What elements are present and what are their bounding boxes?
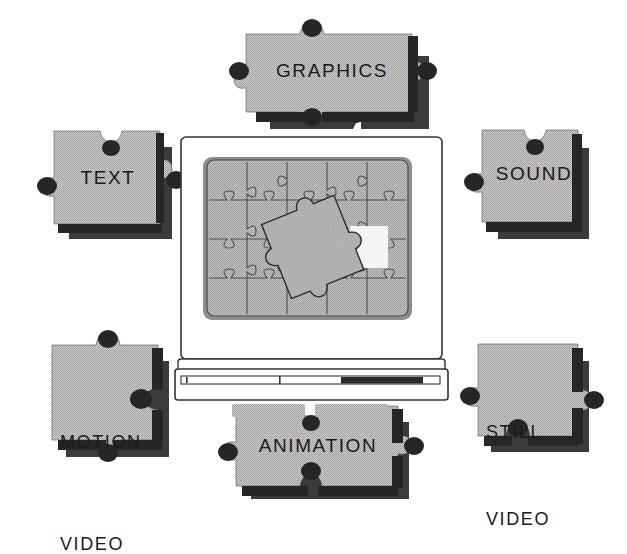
sound-bottom-shade	[486, 222, 582, 232]
still-body	[464, 344, 591, 436]
sound-body	[468, 130, 578, 222]
graphics-body	[234, 22, 424, 124]
text-left-knob-icon	[37, 177, 57, 195]
still-right-knob-icon	[584, 391, 604, 409]
motion-bottom-shade-a	[58, 440, 106, 450]
animation-left-knob-icon	[218, 443, 238, 461]
monitor-screen[interactable]	[203, 157, 412, 320]
monitor-slot-divider	[279, 376, 281, 384]
monitor-slot-indicator	[341, 377, 423, 384]
animation-top-knob-icon	[302, 415, 320, 431]
still-right-shade-a	[572, 348, 583, 392]
puzzle-piece-text[interactable]	[37, 131, 186, 239]
still-bottom-shade-a	[484, 436, 512, 446]
still-bottom-shade-b	[528, 436, 578, 446]
animation-bottom-shade-b	[318, 486, 398, 496]
animation-bottom-shade-a	[242, 486, 308, 496]
still-bottom-knob-icon	[508, 419, 528, 437]
sound-top-knob-icon	[526, 139, 544, 155]
sound-right-edge-shade	[572, 134, 582, 224]
graphics-right-knob-icon	[417, 62, 437, 80]
motion-top-knob-icon	[98, 330, 118, 348]
animation-bottom-knob-icon	[301, 462, 321, 480]
computer-monitor[interactable]	[175, 137, 448, 417]
puzzle-piece-animation[interactable]	[218, 406, 424, 499]
puzzle-piece-still-video[interactable]	[460, 344, 604, 452]
puzzle-piece-graphics[interactable]	[229, 19, 437, 129]
graphics-left-knob-icon	[229, 62, 249, 80]
motion-right-shade-a	[152, 348, 163, 390]
animation-right-shade-b	[392, 456, 403, 488]
motion-right-shade-b	[152, 410, 163, 444]
monitor-foot-left	[232, 404, 305, 417]
puzzle-piece-sound[interactable]	[464, 130, 589, 239]
text-top-knob-icon	[102, 140, 120, 156]
graphics-top-knob-icon	[302, 19, 322, 37]
motion-bottom-shade-b	[114, 440, 162, 450]
puzzle-piece-motion-video[interactable]	[52, 330, 169, 462]
sound-left-knob-icon	[464, 173, 484, 191]
text-bottom-shade	[58, 224, 162, 233]
monitor-slot-tick	[186, 377, 188, 383]
motion-right-knob-icon	[130, 389, 152, 409]
still-left-knob-icon	[460, 387, 480, 405]
animation-right-knob-icon	[404, 437, 424, 455]
animation-right-shade-a	[392, 409, 403, 443]
text-right-edge-shade	[156, 133, 164, 223]
graphics-bottom-shade-b	[322, 112, 414, 122]
graphics-bottom-shade-a	[256, 112, 312, 122]
graphics-right-edge-shade	[408, 36, 418, 112]
monitor-foot-right	[315, 404, 388, 417]
